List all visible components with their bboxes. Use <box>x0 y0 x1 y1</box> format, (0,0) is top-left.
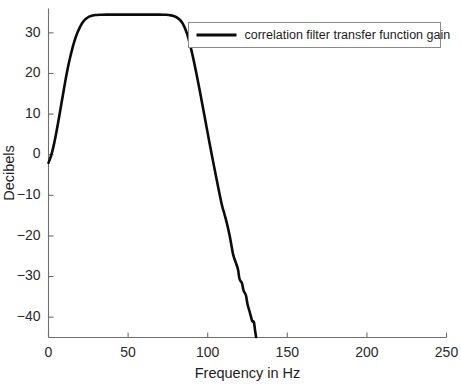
y-tick-label: −20 <box>17 227 41 243</box>
y-tick-label: 30 <box>25 24 41 40</box>
chart-plot: 3020100−10−20−30−40 050100150200250 Freq… <box>0 0 461 384</box>
x-tick-label: 50 <box>120 344 136 360</box>
x-tick-label: 150 <box>276 344 300 360</box>
y-axis-ticks <box>49 33 54 317</box>
x-tick-label: 250 <box>435 344 459 360</box>
figure-canvas: 3020100−10−20−30−40 050100150200250 Freq… <box>0 0 461 384</box>
x-axis-title: Frequency in Hz <box>195 365 301 381</box>
x-axis-ticks <box>49 333 447 338</box>
y-tick-label: −40 <box>17 308 41 324</box>
y-tick-label: −10 <box>17 186 41 202</box>
x-tick-label: 0 <box>45 344 53 360</box>
y-tick-label: 20 <box>25 64 41 80</box>
x-tick-label: 100 <box>196 344 220 360</box>
legend-entry-label: correlation filter transfer function gai… <box>245 28 451 42</box>
data-series-line <box>49 15 257 338</box>
x-tick-label: 200 <box>355 344 379 360</box>
y-axis-tick-labels: 3020100−10−20−30−40 <box>17 24 41 324</box>
x-axis-tick-labels: 050100150200250 <box>45 344 459 360</box>
y-tick-label: −30 <box>17 267 41 283</box>
chart-legend[interactable]: correlation filter transfer function gai… <box>189 23 451 48</box>
y-tick-label: 10 <box>25 105 41 121</box>
y-tick-label: 0 <box>33 145 41 161</box>
y-axis-title: Decibels <box>1 145 17 201</box>
